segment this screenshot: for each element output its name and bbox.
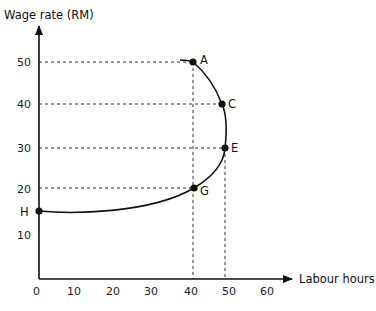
labour-supply-chart: Wage rate (RM) Labour hours 50 40 30 20 … — [0, 0, 376, 311]
y-tick-50: 50 — [17, 56, 31, 69]
point-label-h: H — [20, 205, 29, 219]
reference-lines — [39, 62, 225, 279]
x-tick-0: 0 — [33, 285, 40, 298]
point-label-e: E — [231, 141, 238, 155]
x-tick-10: 10 — [67, 285, 81, 298]
x-axis-label: Labour hours — [299, 272, 375, 286]
labour-supply-curve — [39, 60, 226, 212]
x-tick-50: 50 — [222, 285, 236, 298]
y-axis-label: Wage rate (RM) — [4, 8, 94, 22]
point-a — [189, 58, 196, 65]
x-tick-60: 60 — [260, 285, 274, 298]
point-label-g: G — [200, 184, 209, 198]
point-e — [221, 144, 228, 151]
point-label-c: C — [228, 97, 236, 111]
point-label-a: A — [200, 53, 208, 67]
point-g — [190, 184, 197, 191]
point-h — [35, 207, 42, 214]
x-tick-20: 20 — [106, 285, 120, 298]
x-tick-30: 30 — [144, 285, 158, 298]
y-tick-40: 40 — [17, 98, 31, 111]
x-tick-40: 40 — [184, 285, 198, 298]
x-tick-labels: 0 10 20 30 40 50 60 — [33, 285, 274, 298]
y-tick-10: 10 — [17, 229, 31, 242]
y-tick-20: 20 — [17, 183, 31, 196]
point-c — [218, 100, 225, 107]
y-tick-30: 30 — [17, 142, 31, 155]
